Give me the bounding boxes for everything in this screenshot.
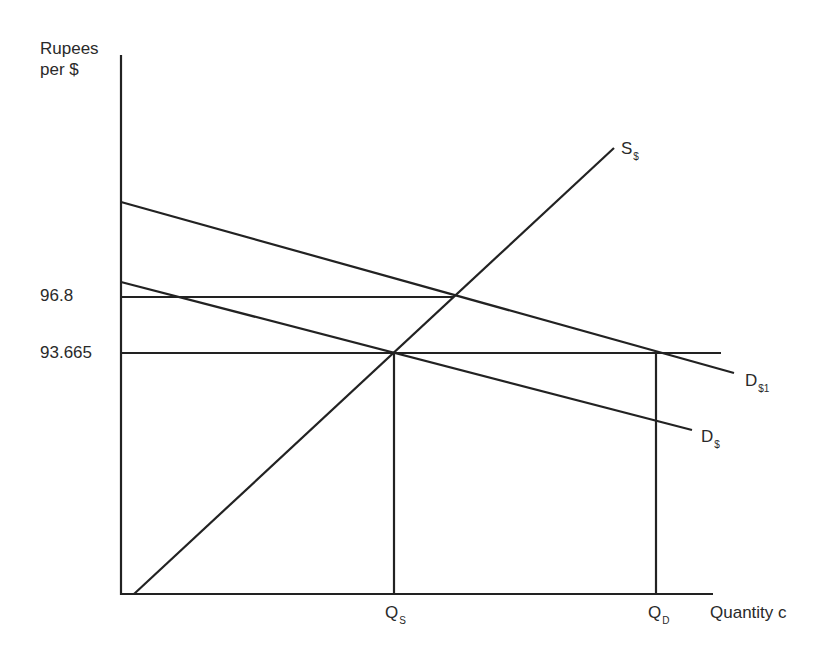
y-axis-label: Rupees per $ xyxy=(40,38,99,80)
supply-label: S$ xyxy=(621,140,639,157)
demand1-label: D$1 xyxy=(745,372,769,389)
y-tick-96-8: 96.8 xyxy=(40,287,73,304)
y-tick-93-665: 93.665 xyxy=(40,344,92,361)
x-tick-qs: QS xyxy=(385,604,406,621)
x-tick-qd: QD xyxy=(648,604,669,621)
demand-curve-d xyxy=(121,282,692,430)
x-axis-label: Quantity c xyxy=(710,604,787,621)
chart-canvas xyxy=(0,0,840,655)
demand-curve-d1 xyxy=(121,202,734,373)
demand-label: D$ xyxy=(701,428,720,445)
supply-curve-s xyxy=(134,148,614,594)
